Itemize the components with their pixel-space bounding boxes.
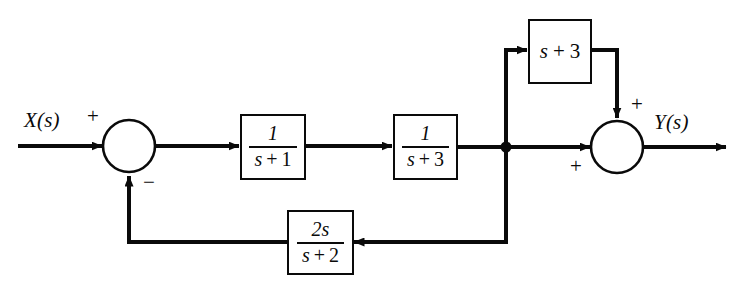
input-summing-junction (103, 120, 155, 172)
output-summing-junction (591, 121, 643, 173)
diagram-canvas (0, 0, 732, 293)
pickoff-point-dot (501, 142, 512, 153)
block-diagram: X(s) Y(s) + − + + 1 s+1 1 s+3 s+3 (0, 0, 732, 293)
